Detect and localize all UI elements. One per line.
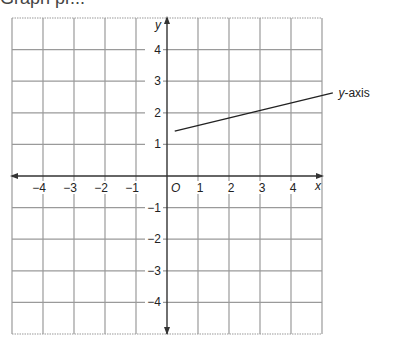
x-tick-label: 2 xyxy=(228,181,235,195)
coordinate-grid: −4−3−2−11234−4−3−2−11234Oxyy-axis xyxy=(0,0,395,347)
x-tick-label: −1 xyxy=(125,181,139,195)
origin-label: O xyxy=(171,181,180,195)
x-tick-label: −3 xyxy=(63,181,77,195)
y-tick-label: −2 xyxy=(147,232,161,246)
y-tick-label: −4 xyxy=(147,295,161,309)
y-axis-arrow-up-icon xyxy=(164,16,170,24)
y-tick-label: 4 xyxy=(154,43,161,57)
line-annotation-label: y-axis xyxy=(337,86,369,100)
y-tick-label: 3 xyxy=(154,74,161,88)
y-axis-label: y xyxy=(154,18,162,32)
x-axis-label: x xyxy=(314,179,322,193)
x-tick-label: −4 xyxy=(32,181,46,195)
y-tick-label: −3 xyxy=(147,264,161,278)
x-tick-label: 1 xyxy=(197,181,204,195)
y-tick-label: −1 xyxy=(147,201,161,215)
y-tick-label: 1 xyxy=(154,137,161,151)
x-tick-label: 3 xyxy=(259,181,266,195)
y-tick-label: 2 xyxy=(154,106,161,120)
x-tick-label: 4 xyxy=(290,181,297,195)
x-axis-arrow-left-icon xyxy=(10,173,18,179)
x-tick-label: −2 xyxy=(94,181,108,195)
